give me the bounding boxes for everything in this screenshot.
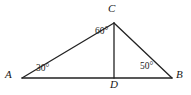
angle-label-c: 60°: [95, 26, 108, 36]
vertex-label-a: A: [5, 69, 12, 80]
vertex-label-c: C: [108, 3, 115, 14]
vertex-label-d: D: [110, 79, 118, 90]
triangle-diagram-canvas: [0, 0, 191, 95]
angle-label-b: 50°: [140, 61, 153, 71]
geometry-figure: A B C D 30° 60° 50°: [0, 0, 191, 95]
vertex-label-b: B: [176, 69, 183, 80]
angle-label-a: 30°: [36, 63, 49, 73]
